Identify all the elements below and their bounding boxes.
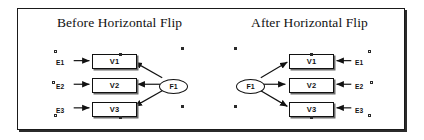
error-label-e1-before[interactable]: E1 bbox=[56, 59, 64, 66]
selection-handle[interactable] bbox=[52, 81, 55, 84]
node-box-v1-before[interactable]: V1 bbox=[92, 54, 137, 69]
node-box-v2-after[interactable]: V2 bbox=[289, 78, 334, 93]
node-box-label: V2 bbox=[290, 79, 333, 92]
error-label-e1-after[interactable]: E1 bbox=[355, 59, 363, 66]
factor-label: F1 bbox=[160, 80, 187, 93]
selection-handle[interactable] bbox=[119, 116, 122, 119]
error-label-e3-after[interactable]: E3 bbox=[355, 107, 363, 114]
selection-handle[interactable] bbox=[181, 47, 184, 50]
selection-handle[interactable] bbox=[234, 105, 237, 108]
node-box-v1-after[interactable]: V1 bbox=[289, 54, 334, 69]
node-box-label: V3 bbox=[93, 103, 136, 116]
factor-ellipse-f1-after[interactable]: F1 bbox=[236, 79, 265, 94]
panel-before-flip[interactable]: Before Horizontal Flip V1 bbox=[18, 9, 213, 129]
node-box-v2-before[interactable]: V2 bbox=[92, 78, 137, 93]
node-box-v3-after[interactable]: V3 bbox=[289, 102, 334, 117]
selection-handle[interactable] bbox=[181, 105, 184, 108]
selection-handle[interactable] bbox=[310, 116, 313, 119]
selection-handle[interactable] bbox=[368, 50, 371, 53]
error-label-e2-after[interactable]: E2 bbox=[355, 83, 363, 90]
error-label-e3-before[interactable]: E3 bbox=[56, 107, 64, 114]
node-box-label: V2 bbox=[93, 79, 136, 92]
node-box-label: V1 bbox=[290, 55, 333, 68]
selection-handle[interactable] bbox=[54, 114, 57, 117]
diagram-frame: Before Horizontal Flip V1 bbox=[17, 8, 405, 130]
factor-ellipse-f1-before[interactable]: F1 bbox=[159, 79, 188, 94]
node-box-v3-before[interactable]: V3 bbox=[92, 102, 137, 117]
selection-handle[interactable] bbox=[54, 50, 57, 53]
selection-handle[interactable] bbox=[370, 81, 373, 84]
selection-handle[interactable] bbox=[310, 53, 313, 56]
node-box-label: V1 bbox=[93, 55, 136, 68]
selection-handle[interactable] bbox=[119, 53, 122, 56]
node-box-label: V3 bbox=[290, 103, 333, 116]
selection-handle[interactable] bbox=[234, 47, 237, 50]
selection-handle[interactable] bbox=[368, 114, 371, 117]
factor-label: F1 bbox=[237, 80, 264, 93]
screenshot-root: Before Horizontal Flip V1 bbox=[0, 0, 424, 140]
error-label-e2-before[interactable]: E2 bbox=[56, 83, 64, 90]
panel-after-flip[interactable]: After Horizontal Flip V1 bbox=[213, 9, 406, 129]
